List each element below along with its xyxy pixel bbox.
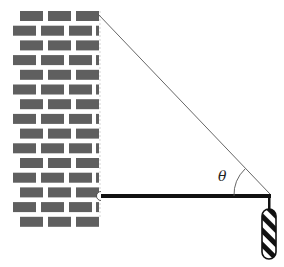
brick xyxy=(48,11,71,21)
brick xyxy=(48,158,71,168)
brick xyxy=(96,202,99,212)
brick xyxy=(48,129,71,139)
brick xyxy=(20,187,43,197)
brick xyxy=(41,55,64,65)
brick xyxy=(69,85,92,95)
brick xyxy=(76,158,99,168)
brick xyxy=(76,99,99,109)
brick xyxy=(13,202,36,212)
diagram-svg xyxy=(0,0,284,267)
brick xyxy=(69,173,92,183)
brick xyxy=(48,40,71,50)
brick xyxy=(76,70,99,80)
brick xyxy=(13,173,36,183)
brick xyxy=(96,26,99,36)
brick xyxy=(96,85,99,95)
brick xyxy=(76,217,99,227)
brick xyxy=(20,99,43,109)
hanger-link xyxy=(268,198,271,210)
beam xyxy=(101,194,271,198)
brick xyxy=(69,114,92,124)
brick xyxy=(96,143,99,153)
brick xyxy=(69,143,92,153)
brick xyxy=(41,114,64,124)
cable xyxy=(98,14,270,194)
brick xyxy=(76,11,99,21)
brick xyxy=(13,114,36,124)
brick xyxy=(48,99,71,109)
diagram-canvas: θ xyxy=(0,0,284,267)
brick xyxy=(41,143,64,153)
brick xyxy=(96,55,99,65)
brick xyxy=(96,114,99,124)
brick xyxy=(13,26,36,36)
brick xyxy=(20,129,43,139)
brick xyxy=(20,11,43,21)
brick xyxy=(13,85,36,95)
brick xyxy=(48,217,71,227)
brick xyxy=(69,202,92,212)
brick xyxy=(69,26,92,36)
angle-arc xyxy=(234,169,245,196)
brick xyxy=(76,40,99,50)
brick-wall xyxy=(13,11,99,227)
brick xyxy=(13,55,36,65)
angle-label-theta: θ xyxy=(218,168,226,184)
brick xyxy=(41,26,64,36)
brick xyxy=(69,55,92,65)
brick xyxy=(20,40,43,50)
brick xyxy=(41,202,64,212)
brick xyxy=(76,187,99,197)
brick xyxy=(20,158,43,168)
brick xyxy=(48,187,71,197)
brick xyxy=(13,143,36,153)
brick xyxy=(20,70,43,80)
brick xyxy=(96,173,99,183)
brick xyxy=(48,70,71,80)
brick xyxy=(41,173,64,183)
hanging-weight xyxy=(262,209,276,259)
brick xyxy=(76,129,99,139)
brick xyxy=(41,85,64,95)
brick xyxy=(20,217,43,227)
